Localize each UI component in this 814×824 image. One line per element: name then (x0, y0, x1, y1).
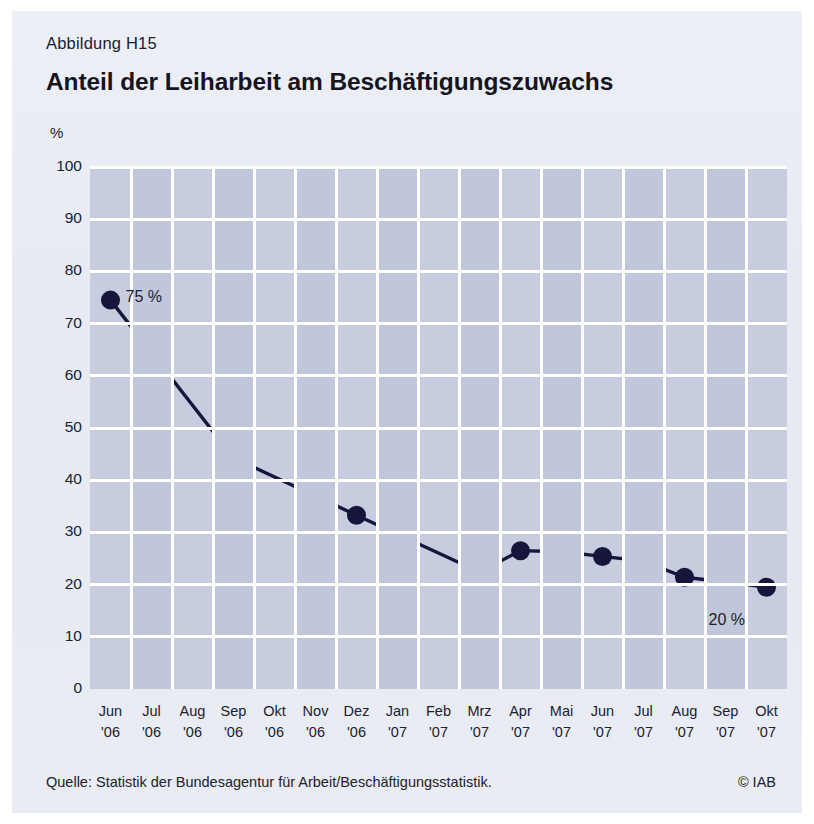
gridline-horizontal (90, 218, 787, 221)
x-axis-tick-year: '06 (295, 722, 336, 743)
x-axis-tick-month: Jun (582, 701, 623, 722)
data-point-label: 20 % (709, 611, 745, 629)
data-point-marker[interactable] (101, 291, 120, 310)
x-axis-tick-month: Mai (541, 701, 582, 722)
x-axis-tick: Apr'07 (500, 701, 541, 743)
x-axis-tick: Aug'06 (172, 701, 213, 743)
x-axis-tick-month: Apr (500, 701, 541, 722)
copyright-note: © IAB (738, 774, 776, 790)
gridline-horizontal (90, 635, 787, 638)
x-axis-tick-year: '07 (541, 722, 582, 743)
y-axis-tick-labels: 0102030405060708090100 (24, 167, 82, 689)
data-point-marker[interactable] (511, 541, 530, 560)
y-axis-unit-label: % (50, 124, 63, 141)
series-markers (101, 291, 776, 597)
x-axis-tick-month: Feb (418, 701, 459, 722)
data-point-marker[interactable] (347, 506, 366, 525)
x-axis-tick-year: '07 (500, 722, 541, 743)
gridline-horizontal (90, 322, 787, 325)
data-point-marker[interactable] (757, 578, 776, 597)
x-axis-tick-year: '06 (90, 722, 131, 743)
x-axis-tick-year: '06 (336, 722, 377, 743)
x-axis-tick-month: Okt (254, 701, 295, 722)
figure-card: Abbildung H15 Anteil der Leiharbeit am B… (12, 11, 802, 813)
gridline-horizontal (90, 427, 787, 430)
x-axis-tick-year: '07 (418, 722, 459, 743)
y-axis-tick: 60 (36, 366, 82, 384)
gridline-horizontal (90, 479, 787, 482)
gridline-horizontal (90, 531, 787, 534)
y-axis-tick: 10 (36, 627, 82, 645)
x-axis-tick-year: '06 (254, 722, 295, 743)
x-axis-tick: Nov'06 (295, 701, 336, 743)
x-axis-tick-month: Nov (295, 701, 336, 722)
gridline-horizontal (90, 166, 787, 169)
x-axis-tick-month: Aug (664, 701, 705, 722)
x-axis-tick: Jun'06 (90, 701, 131, 743)
gridline-horizontal (90, 374, 787, 377)
x-axis-tick-month: Mrz (459, 701, 500, 722)
x-axis-tick-labels: Jun'06Jul'06Aug'06Sep'06Okt'06Nov'06Dez'… (90, 701, 787, 757)
plot-area (90, 167, 787, 689)
figure-number: Abbildung H15 (46, 34, 157, 53)
x-axis-tick-month: Aug (172, 701, 213, 722)
x-axis-tick-year: '07 (746, 722, 787, 743)
gridline-horizontal (90, 583, 787, 586)
x-axis-tick-month: Dez (336, 701, 377, 722)
x-axis-tick: Jun'07 (582, 701, 623, 743)
y-axis-tick: 50 (36, 418, 82, 436)
y-axis-tick: 70 (36, 314, 82, 332)
x-axis-tick-month: Okt (746, 701, 787, 722)
x-axis-tick: Jul'06 (131, 701, 172, 743)
source-note: Quelle: Statistik der Bundesagentur für … (46, 774, 492, 790)
x-axis-tick: Mai'07 (541, 701, 582, 743)
x-axis-tick-year: '07 (459, 722, 500, 743)
x-axis-tick-year: '06 (131, 722, 172, 743)
x-axis-tick-year: '07 (377, 722, 418, 743)
x-axis-tick: Mrz'07 (459, 701, 500, 743)
x-axis-tick: Jan'07 (377, 701, 418, 743)
x-axis-tick: Sep'07 (705, 701, 746, 743)
figure-title: Anteil der Leiharbeit am Beschäftigungsz… (46, 68, 613, 96)
x-axis-tick: Jul'07 (623, 701, 664, 743)
x-axis-tick-month: Jul (623, 701, 664, 722)
gridline-horizontal (90, 270, 787, 273)
y-axis-tick: 30 (36, 522, 82, 540)
y-axis-tick: 80 (36, 261, 82, 279)
x-axis-tick: Okt'07 (746, 701, 787, 743)
x-axis-tick-year: '06 (213, 722, 254, 743)
series-polyline (111, 300, 767, 587)
x-axis-tick-year: '07 (623, 722, 664, 743)
x-axis-tick: Sep'06 (213, 701, 254, 743)
x-axis-tick-year: '07 (705, 722, 746, 743)
x-axis-tick: Feb'07 (418, 701, 459, 743)
data-point-marker[interactable] (593, 547, 612, 566)
x-axis-tick: Dez'06 (336, 701, 377, 743)
x-axis-tick-year: '06 (172, 722, 213, 743)
x-axis-tick: Okt'06 (254, 701, 295, 743)
x-axis-tick-month: Sep (213, 701, 254, 722)
x-axis-tick-month: Sep (705, 701, 746, 722)
y-axis-tick: 90 (36, 209, 82, 227)
x-axis-tick-month: Jul (131, 701, 172, 722)
y-axis-tick: 0 (36, 679, 82, 697)
x-axis-tick-month: Jan (377, 701, 418, 722)
x-axis-tick-year: '07 (664, 722, 705, 743)
x-axis-tick: Aug'07 (664, 701, 705, 743)
x-axis-tick-month: Jun (90, 701, 131, 722)
x-axis-tick-year: '07 (582, 722, 623, 743)
data-point-label: 75 % (126, 288, 162, 306)
y-axis-tick: 100 (36, 157, 82, 175)
y-axis-tick: 40 (36, 470, 82, 488)
y-axis-tick: 20 (36, 575, 82, 593)
